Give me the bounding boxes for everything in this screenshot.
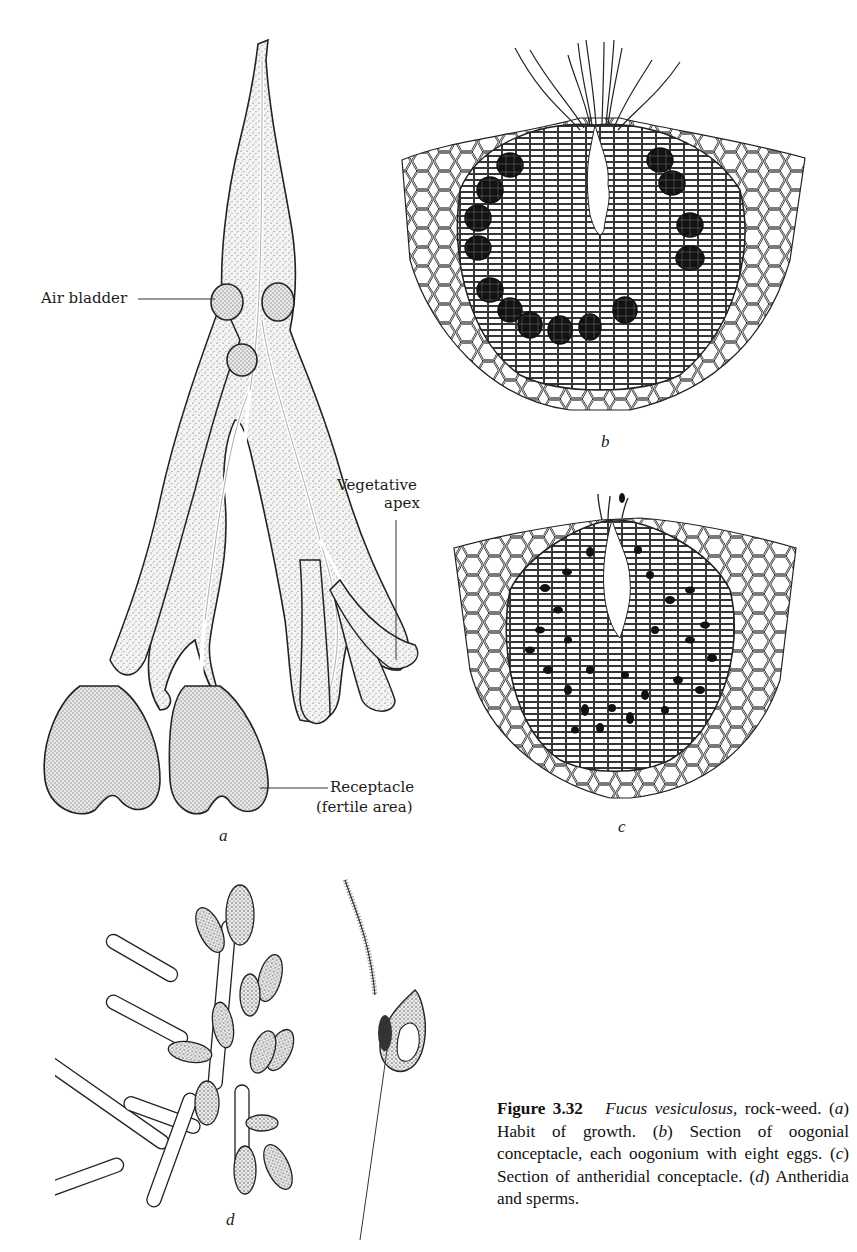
receptacle-left [44,686,160,814]
panel-letter-a: a [219,826,228,846]
species-name: Fucus vesiculosus, [605,1099,737,1118]
antheridial-conceptacle-drawing [440,480,820,850]
label-apex: apex [384,495,420,512]
label-receptacle: Receptacle [330,779,414,796]
panel-letter-b: b [601,432,610,452]
panel-d-antheridia-sperms: d [55,870,485,1250]
panel-b-oogonial-conceptacle: b [390,0,820,470]
panel-letter-c: c [618,817,626,837]
figure-caption: Figure 3.32 Fucus vesiculosus, rock-weed… [497,1098,849,1211]
caption-letter-a: a [835,1099,844,1118]
label-vegetative: Vegetative [337,477,417,494]
label-fertile-area: (fertile area) [316,799,413,816]
air-bladder-right [262,283,294,321]
panel-c-antheridial-conceptacle: c [440,480,820,850]
air-bladder-left [211,284,243,320]
caption-letter-d: d [755,1167,764,1186]
panel-letter-d: d [226,1210,235,1230]
figure-number: Figure 3.32 [497,1099,583,1118]
oogonial-conceptacle-drawing [390,0,820,470]
caption-text-intro: rock-weed. ( [737,1099,834,1118]
sperm-illustration [345,880,425,1240]
label-air-bladder: Air bladder [41,290,127,307]
air-bladder-fork [227,344,257,376]
antheridia-branch-drawing [55,870,485,1250]
receptacle-right [169,686,268,814]
caption-letter-b: b [658,1122,667,1141]
